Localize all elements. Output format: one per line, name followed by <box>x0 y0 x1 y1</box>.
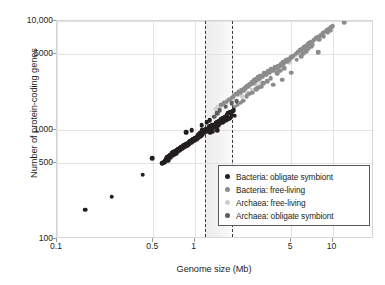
legend-marker-icon <box>225 213 230 218</box>
gridline-vertical <box>153 21 154 237</box>
data-point <box>328 28 333 33</box>
x-tick-label: 5 <box>270 241 310 251</box>
legend: Bacteria: obligate symbiont Bacteria: fr… <box>218 165 370 226</box>
data-point <box>304 49 309 54</box>
gridline-vertical <box>195 21 196 237</box>
data-point <box>235 99 240 104</box>
data-point <box>256 85 261 90</box>
data-point <box>278 68 283 73</box>
legend-item-bacteria-obligate-symbiont[interactable]: Bacteria: obligate symbiont <box>225 170 364 183</box>
y-tick-label: 5000 <box>0 48 53 58</box>
x-tick-mark <box>194 238 195 242</box>
data-point <box>207 118 212 123</box>
gridline-vertical <box>57 21 58 237</box>
x-tick-label: 1 <box>174 241 214 251</box>
data-point <box>215 128 220 133</box>
data-point <box>83 208 88 213</box>
data-point <box>231 108 236 113</box>
gridline-horizontal <box>57 54 372 55</box>
legend-item-label: Bacteria: free-living <box>236 185 305 195</box>
data-point <box>316 50 321 55</box>
data-point <box>261 81 266 86</box>
scatter-plot-figure: Number of protein-coding genes Genome si… <box>0 0 385 285</box>
data-point <box>268 76 273 81</box>
data-point <box>199 123 204 128</box>
data-point <box>342 20 347 24</box>
data-point <box>280 77 285 82</box>
data-point <box>247 91 252 96</box>
legend-item-archaea-free-living[interactable]: Archaea: free-living <box>225 196 364 209</box>
data-point <box>184 130 189 135</box>
x-tick-label: 0.5 <box>132 241 172 251</box>
x-tick-mark <box>290 238 291 242</box>
legend-item-archaea-obligate-symbiont[interactable]: Archaea: obligate symbiont <box>225 209 364 222</box>
y-tick-label: 1000 <box>0 124 53 134</box>
x-tick-mark <box>152 238 153 242</box>
y-axis-title: Number of protein-coding genes <box>29 3 39 223</box>
data-point <box>150 156 155 161</box>
y-tick-label: 10,000 <box>0 15 53 25</box>
x-tick-mark <box>332 238 333 242</box>
data-point <box>299 54 304 59</box>
data-point <box>232 113 237 118</box>
data-point <box>224 104 229 109</box>
legend-item-label: Archaea: obligate symbiont <box>236 211 333 221</box>
x-tick-label: 10 <box>312 241 352 251</box>
x-tick-label: 0.1 <box>36 241 76 251</box>
legend-marker-icon <box>225 200 230 205</box>
gridline-horizontal <box>57 21 372 22</box>
data-point <box>309 44 314 49</box>
data-point <box>241 99 246 104</box>
legend-marker-icon <box>225 174 230 179</box>
data-point <box>229 101 234 106</box>
gridline-horizontal <box>57 163 372 164</box>
data-point <box>212 114 217 119</box>
data-point <box>141 172 146 177</box>
legend-marker-icon <box>225 187 230 192</box>
data-point <box>289 70 294 75</box>
legend-item-label: Bacteria: obligate symbiont <box>236 172 333 182</box>
x-axis-title: Genome size (Mb) <box>55 264 373 274</box>
x-tick-mark <box>56 238 57 242</box>
data-point <box>271 82 276 87</box>
legend-item-bacteria-free-living[interactable]: Bacteria: free-living <box>225 183 364 196</box>
legend-item-label: Archaea: free-living <box>236 198 305 208</box>
data-point <box>282 66 287 71</box>
data-point <box>189 128 194 133</box>
y-tick-label: 500 <box>0 157 53 167</box>
data-point <box>110 194 115 199</box>
